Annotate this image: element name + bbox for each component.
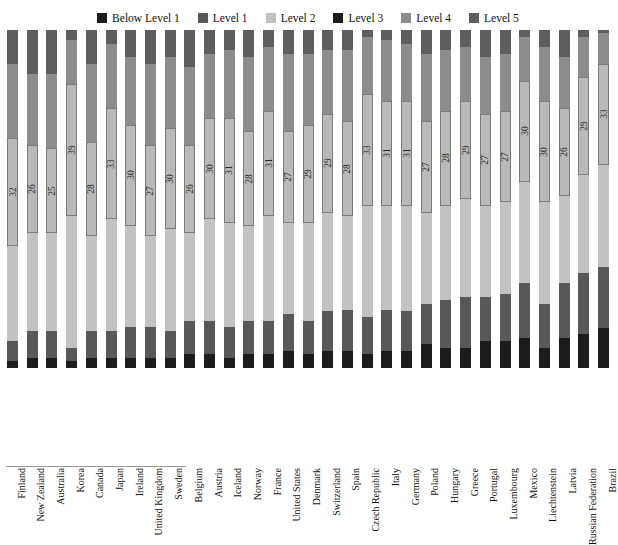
chart-column[interactable]: 33 <box>362 30 373 368</box>
legend-swatch-icon <box>266 13 276 23</box>
legend-item[interactable]: Level 3 <box>333 12 383 24</box>
bar-segment <box>86 30 97 64</box>
chart-column[interactable]: 27 <box>145 30 156 368</box>
chart-column[interactable]: 30 <box>204 30 215 368</box>
bar-segment <box>106 331 117 358</box>
chart-column[interactable]: 31 <box>381 30 392 368</box>
chart-column[interactable]: 31 <box>224 30 235 368</box>
bar-segment <box>184 233 195 321</box>
stacked-bar: 31 <box>263 30 274 368</box>
legend-item[interactable]: Level 1 <box>198 12 248 24</box>
chart-column[interactable]: 26 <box>184 30 195 368</box>
bar-segment <box>440 50 451 111</box>
bar-segment <box>519 338 530 368</box>
x-axis-label: Norway <box>253 468 263 500</box>
bar-value-label: 30 <box>205 164 215 174</box>
stacked-bar: 31 <box>381 30 392 368</box>
bar-value-label: 33 <box>106 159 116 169</box>
bar-value-label: 26 <box>27 184 37 194</box>
bar-segment <box>598 328 609 368</box>
chart-column[interactable]: 28 <box>440 30 451 368</box>
bar-value-label: 31 <box>402 149 412 159</box>
bar-segment <box>7 341 18 361</box>
bar-segment <box>86 236 97 331</box>
chart-column[interactable]: 27 <box>283 30 294 368</box>
bar-value-label: 26 <box>185 184 195 194</box>
bar-segment: 26 <box>184 145 195 233</box>
bar-segment <box>421 54 432 122</box>
bar-segment <box>440 348 451 368</box>
bar-segment <box>145 236 156 327</box>
legend-item[interactable]: Below Level 1 <box>97 12 180 24</box>
chart-column[interactable]: 31 <box>263 30 274 368</box>
bar-value-label: 28 <box>86 184 96 194</box>
stacked-bar: 30 <box>125 30 136 368</box>
bar-segment <box>184 30 195 67</box>
bar-segment <box>263 47 274 111</box>
legend-item[interactable]: Level 5 <box>469 12 519 24</box>
bar-segment <box>27 30 38 74</box>
bar-segment <box>362 30 373 37</box>
x-axis-label: Russian Federation <box>588 468 598 545</box>
bar-segment <box>362 354 373 368</box>
bar-segment: 31 <box>224 118 235 223</box>
bar-segment <box>263 216 274 321</box>
bar-segment <box>303 321 314 355</box>
x-axis-label: Latvia <box>568 468 578 494</box>
bar-segment <box>27 74 38 145</box>
bar-segment: 30 <box>539 101 550 202</box>
bar-segment <box>184 354 195 368</box>
chart-column[interactable]: 33 <box>106 30 117 368</box>
chart-column[interactable]: 28 <box>86 30 97 368</box>
x-axis-label: Denmark <box>312 468 322 505</box>
bar-segment <box>263 321 274 355</box>
chart-column[interactable]: 33 <box>598 30 609 368</box>
legend-item[interactable]: Level 4 <box>401 12 451 24</box>
bar-segment <box>519 283 530 337</box>
bar-segment <box>243 321 254 355</box>
bar-segment <box>303 30 314 54</box>
chart-column[interactable]: 26 <box>27 30 38 368</box>
chart-column[interactable]: 29 <box>303 30 314 368</box>
chart-column[interactable]: 28 <box>342 30 353 368</box>
chart-column[interactable]: 39 <box>66 30 77 368</box>
legend-item[interactable]: Level 2 <box>266 12 316 24</box>
chart-column[interactable]: 28 <box>243 30 254 368</box>
bar-segment <box>500 30 511 54</box>
chart-column[interactable]: 29 <box>460 30 471 368</box>
chart-column[interactable]: 30 <box>519 30 530 368</box>
bar-segment <box>421 304 432 345</box>
bar-segment <box>322 50 333 114</box>
bar-segment <box>578 334 589 368</box>
bar-segment <box>421 30 432 54</box>
bar-segment <box>559 30 570 57</box>
x-axis-label: Portugal <box>489 468 499 502</box>
chart-column[interactable]: 30 <box>165 30 176 368</box>
chart-column[interactable]: 27 <box>500 30 511 368</box>
chart-column[interactable]: 26 <box>559 30 570 368</box>
bar-segment <box>204 54 215 118</box>
bar-segment <box>106 30 117 44</box>
chart-column[interactable]: 27 <box>480 30 491 368</box>
bar-segment <box>145 64 156 145</box>
chart-column[interactable]: 27 <box>421 30 432 368</box>
bar-segment <box>106 44 117 108</box>
bar-segment <box>145 30 156 64</box>
chart-column[interactable]: 32 <box>7 30 18 368</box>
bar-value-label: 30 <box>126 171 136 181</box>
bar-value-label: 29 <box>303 169 313 179</box>
bar-segment: 28 <box>86 142 97 237</box>
stacked-bar: 39 <box>66 30 77 368</box>
chart-column[interactable]: 30 <box>125 30 136 368</box>
chart-column[interactable]: 29 <box>578 30 589 368</box>
chart-column[interactable]: 25 <box>46 30 57 368</box>
stacked-bar: 30 <box>165 30 176 368</box>
chart-column[interactable]: 29 <box>322 30 333 368</box>
chart-legend: Below Level 1Level 1Level 2Level 3Level … <box>0 8 616 28</box>
x-axis-label: Brazil <box>608 468 618 492</box>
chart-column[interactable]: 30 <box>539 30 550 368</box>
bar-segment: 27 <box>421 121 432 212</box>
bar-segment <box>500 202 511 293</box>
chart-column[interactable]: 31 <box>401 30 412 368</box>
